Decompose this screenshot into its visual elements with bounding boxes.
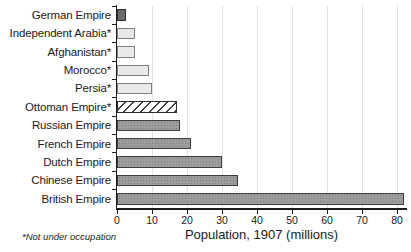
y-axis-tick	[112, 171, 116, 172]
category-label: Russian Empire	[0, 116, 111, 134]
category-label: German Empire	[0, 6, 111, 24]
y-axis-tick	[112, 116, 116, 117]
bar	[117, 156, 222, 168]
x-tick-label: 60	[312, 214, 342, 226]
x-axis-tick	[222, 210, 223, 214]
y-axis-tick	[112, 97, 116, 98]
x-tick-label: 0	[102, 214, 132, 226]
category-label: Persia*	[0, 79, 111, 97]
y-axis-tick	[112, 152, 116, 153]
bar	[117, 101, 177, 113]
bar	[117, 28, 135, 40]
category-label: Dutch Empire	[0, 153, 111, 171]
category-label: Chinese Empire	[0, 171, 111, 189]
bar	[117, 138, 191, 150]
bar	[117, 120, 180, 132]
y-axis-tick	[112, 42, 116, 43]
x-axis-tick	[187, 210, 188, 214]
chart-footnote: *Not under occupation	[22, 231, 116, 242]
x-axis-tick	[397, 210, 398, 214]
category-label: Independent Arabia*	[0, 24, 111, 42]
x-tick-label: 80	[382, 214, 411, 226]
bar	[117, 175, 238, 187]
x-axis-tick	[362, 210, 363, 214]
gridline	[327, 6, 328, 208]
x-axis-tick	[117, 210, 118, 214]
category-label: Ottoman Empire*	[0, 98, 111, 116]
category-label: Afghanistan*	[0, 43, 111, 61]
x-axis-tick	[292, 210, 293, 214]
x-tick-label: 30	[207, 214, 237, 226]
y-axis-tick	[112, 61, 116, 62]
x-tick-label: 50	[277, 214, 307, 226]
x-axis-tick	[257, 210, 258, 214]
x-axis-line	[116, 208, 407, 210]
bar	[117, 9, 126, 21]
gridline	[362, 6, 363, 208]
y-axis-tick	[112, 6, 116, 7]
bar	[117, 193, 404, 205]
bar	[117, 46, 135, 58]
bar	[117, 83, 152, 95]
x-tick-label: 70	[347, 214, 377, 226]
category-label: Morocco*	[0, 61, 111, 79]
y-axis-tick	[112, 189, 116, 190]
x-tick-label: 40	[242, 214, 272, 226]
gridline	[292, 6, 293, 208]
y-axis-tick	[112, 24, 116, 25]
gridline	[257, 6, 258, 208]
gridline	[397, 6, 398, 208]
x-tick-label: 10	[137, 214, 167, 226]
x-tick-label: 20	[172, 214, 202, 226]
x-axis-title: Population, 1907 (millions)	[117, 227, 406, 242]
bar-chart-figure: Population, 1907 (millions) *Not under o…	[0, 0, 411, 252]
bar	[117, 65, 149, 77]
x-axis-tick	[152, 210, 153, 214]
x-axis-tick	[327, 210, 328, 214]
y-axis-tick	[112, 134, 116, 135]
category-label: French Empire	[0, 135, 111, 153]
y-axis-tick	[112, 79, 116, 80]
category-label: British Empire	[0, 190, 111, 208]
